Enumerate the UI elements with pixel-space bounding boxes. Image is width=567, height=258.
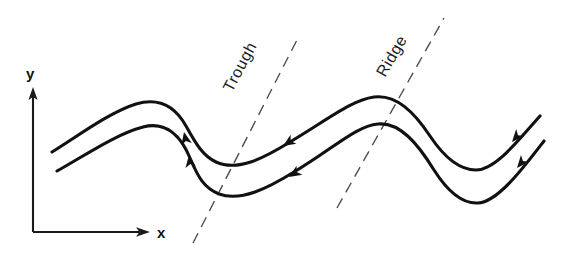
y-axis-label: y	[26, 65, 35, 82]
x-axis-label: x	[157, 224, 166, 241]
guide-labels-group: Trough Ridge	[220, 32, 410, 94]
axis-group: y x	[26, 65, 166, 241]
guide-lines-group	[193, 18, 444, 243]
streamline-diagram: y x Trough Ridge	[0, 0, 567, 258]
trough-label: Trough	[220, 39, 260, 94]
flow-arrows-group	[179, 129, 529, 181]
streamlines-group	[52, 97, 544, 203]
figure-root: y x Trough Ridge	[0, 0, 567, 258]
ridge-label: Ridge	[373, 32, 410, 79]
